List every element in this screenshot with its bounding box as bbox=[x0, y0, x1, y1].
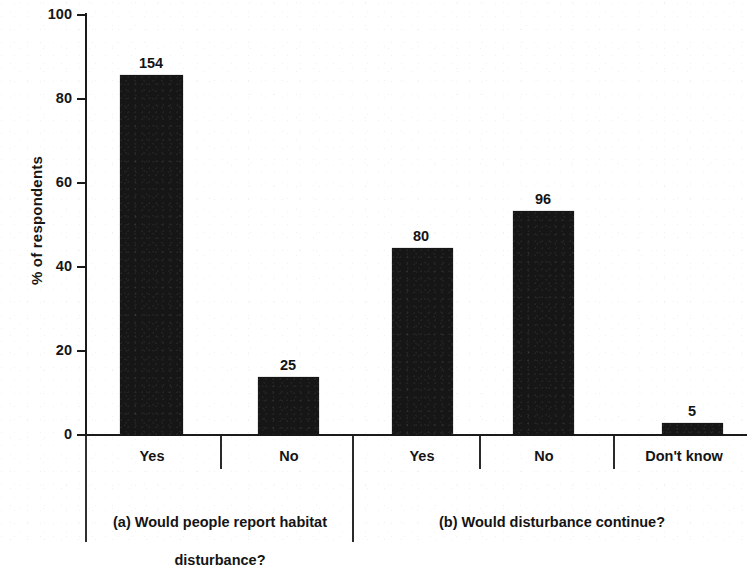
bar-panel-a-no bbox=[258, 377, 319, 435]
x-category-label-b-dont-know: Don't know bbox=[645, 448, 723, 464]
y-tick-label-60: 60 bbox=[0, 174, 72, 190]
y-tick-label-20: 20 bbox=[0, 342, 72, 358]
x-tick-separator-a1 bbox=[220, 436, 222, 469]
panel-a-caption-line2: disturbance? bbox=[174, 552, 265, 568]
y-tick-mark-80 bbox=[77, 98, 86, 100]
y-axis-line bbox=[85, 13, 87, 437]
bar-panel-b-dont-know bbox=[662, 423, 723, 435]
y-tick-label-40: 40 bbox=[0, 258, 72, 274]
y-tick-label-0: 0 bbox=[0, 426, 72, 442]
panel-b-caption: (b) Would disturbance continue? bbox=[372, 494, 732, 532]
y-tick-label-100: 100 bbox=[0, 6, 72, 22]
bar-value-panel-b-dont-know: 5 bbox=[688, 403, 696, 419]
x-category-label-b-no: No bbox=[534, 448, 553, 464]
panel-a-caption-line1: (a) Would people report habitat bbox=[113, 514, 327, 530]
bar-value-panel-a-yes: 154 bbox=[139, 55, 163, 71]
panel-a-caption: (a) Would people report habitat disturba… bbox=[60, 494, 380, 569]
x-tick-separator-b2 bbox=[613, 436, 615, 469]
x-category-label-b-yes: Yes bbox=[410, 448, 435, 464]
bar-value-panel-b-yes: 80 bbox=[413, 228, 429, 244]
bar-panel-b-yes bbox=[392, 248, 453, 435]
x-category-label-a-yes: Yes bbox=[140, 448, 165, 464]
y-tick-mark-20 bbox=[77, 350, 86, 352]
y-tick-mark-40 bbox=[77, 266, 86, 268]
bar-panel-b-no bbox=[513, 211, 574, 435]
x-tick-separator-b1 bbox=[479, 436, 481, 469]
panel-b-caption-line1: (b) Would disturbance continue? bbox=[439, 514, 665, 530]
y-tick-mark-60 bbox=[77, 182, 86, 184]
y-tick-label-80: 80 bbox=[0, 90, 72, 106]
bar-value-panel-b-no: 96 bbox=[535, 191, 551, 207]
y-tick-mark-100 bbox=[77, 14, 86, 16]
y-axis-title: % of respondents bbox=[28, 101, 45, 341]
x-category-label-a-no: No bbox=[279, 448, 298, 464]
bar-value-panel-a-no: 25 bbox=[280, 357, 296, 373]
bar-panel-a-yes bbox=[120, 75, 183, 435]
